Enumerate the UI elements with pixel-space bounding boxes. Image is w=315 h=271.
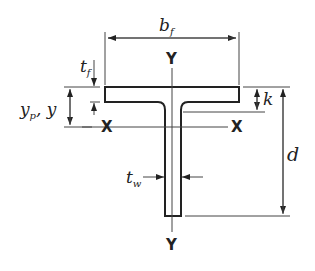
axis-label-y-top: Y [166,52,177,67]
axis-label-y-bottom: Y [166,238,177,253]
label-k: k [263,91,273,108]
axis-label-x-right: X [231,120,243,135]
label-centroid: yp, y [20,101,56,121]
tee-section-diagram: bf tf yp, y k d tw Y Y X X [0,0,315,271]
axis-label-x-left: X [101,120,113,135]
label-bf: bf [159,17,174,37]
label-tf: tf [80,58,91,78]
label-d: d [287,145,299,164]
label-tw: tw [126,169,141,189]
tee-section-drawing [0,0,315,271]
